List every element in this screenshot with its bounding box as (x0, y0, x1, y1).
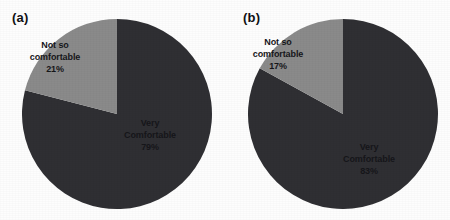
label-line-1: Very (360, 142, 379, 152)
label-line-1: Very (141, 118, 160, 128)
pie-chart-figure: (a) Not so comfortable 21% Very Comforta… (0, 0, 450, 220)
label-line-1: Not so (264, 37, 291, 47)
chart-panel-a: (a) Not so comfortable 21% Very Comforta… (0, 0, 225, 220)
label-line-2: comfortable (253, 49, 303, 59)
label-percent: 79% (106, 141, 194, 153)
label-percent: 21% (14, 63, 96, 75)
pie-label-very-comfortable-b: Very Comfortable 83% (325, 141, 413, 177)
pie-label-not-so-comfortable-b: Not so comfortable 17% (238, 36, 318, 72)
label-line-2: Comfortable (343, 154, 395, 164)
pie-label-not-so-comfortable-a: Not so comfortable 21% (14, 39, 96, 75)
chart-panel-b: (b) Not so comfortable 17% Very Comforta… (225, 0, 450, 220)
label-line-2: Comfortable (124, 130, 176, 140)
label-percent: 83% (325, 165, 413, 177)
label-line-2: comfortable (30, 52, 80, 62)
label-line-1: Not so (41, 40, 68, 50)
label-percent: 17% (238, 60, 318, 72)
pie-label-very-comfortable-a: Very Comfortable 79% (106, 117, 194, 153)
